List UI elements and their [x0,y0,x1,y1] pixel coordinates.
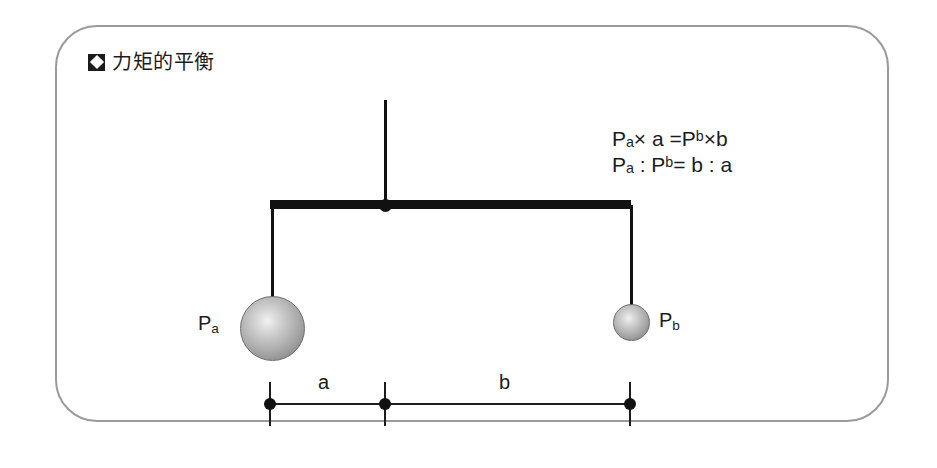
mass-label-b-subscript: b [672,318,680,333]
formula-block: Pₐ× a =Pᵇ×b Pₐ : Pᵇ= b : a [612,126,732,178]
ratio-equation: Pₐ : Pᵇ= b : a [612,152,732,178]
mass-label-a: Pa [198,313,219,333]
ruler-baseline [270,403,631,405]
ruler-dot-right [624,398,636,410]
hanger-rod-right [630,205,633,317]
support-rod [384,100,387,206]
mass-label-b: Pb [659,310,680,330]
balance-beam [270,200,631,209]
mass-sphere-b [613,304,650,341]
outer-panel [55,25,889,422]
moment-equation: Pₐ× a =Pᵇ×b [612,126,732,152]
panel-title-text: 力矩的平衡 [112,52,215,72]
pivot-point-dot [379,199,392,212]
mass-sphere-a [240,296,305,361]
ruler-dot-left [264,398,276,410]
dimension-label-b: b [499,372,510,392]
diagram-canvas: 力矩的平衡 Pₐ× a =Pᵇ×b Pₐ : Pᵇ= b : a Pa Pb a… [0,0,937,468]
panel-title: 力矩的平衡 [88,52,215,72]
diamond-in-square-icon [88,54,105,71]
dimension-label-a: a [318,372,329,392]
mass-label-a-subscript: a [211,321,219,336]
hanger-rod-left [271,205,274,310]
ruler-dot-center [379,398,391,410]
